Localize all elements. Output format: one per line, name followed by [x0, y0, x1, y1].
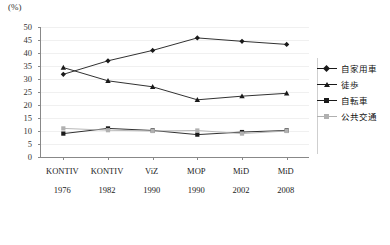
legend-item-1[interactable]: 徒歩 [317, 76, 389, 92]
legend-item-3[interactable]: 公共交通 [317, 108, 389, 124]
legend-item-2[interactable]: 自転車 [317, 92, 389, 108]
legend-marker-icon-0 [317, 63, 337, 73]
series-2 [61, 126, 289, 136]
series-1 [61, 65, 290, 102]
legend-marker-icon-2 [317, 95, 337, 105]
x-tick-mark [108, 157, 109, 160]
y-tick-label: 50 [2, 23, 32, 32]
y-tick-label: 20 [2, 101, 32, 110]
chart-root: (%) 05101520253035404550 KONTIV1976KONTI… [0, 0, 390, 245]
x-tick-mark [242, 157, 243, 160]
y-axis-unit-label: (%) [8, 2, 22, 12]
x-tick-mark [153, 157, 154, 160]
x-axis-year: 2008 [256, 185, 316, 196]
legend-label-3: 公共交通 [341, 110, 377, 122]
series-line [63, 68, 286, 100]
y-tick-label: 5 [2, 140, 32, 149]
series-3 [61, 126, 289, 135]
y-tick-label: 15 [2, 114, 32, 123]
y-tick-label: 25 [2, 88, 32, 97]
legend-point-icon [324, 82, 330, 87]
legend-point-icon [324, 98, 329, 103]
y-tick-label: 45 [2, 36, 32, 45]
x-tick-mark [63, 157, 64, 160]
data-point-marker [285, 129, 289, 133]
series-0 [61, 35, 290, 77]
data-point-marker [239, 39, 244, 44]
y-tick-label: 10 [2, 127, 32, 136]
data-point-marker [61, 72, 66, 77]
series-line [63, 38, 286, 74]
x-tick-mark [197, 157, 198, 160]
chart-legend: 自家用車 徒歩 自転車 公共交通 [317, 60, 389, 124]
x-axis-survey-name: MiD [256, 166, 316, 177]
y-tick-label: 0 [2, 153, 32, 162]
data-point-marker [284, 42, 289, 47]
y-tick-label: 35 [2, 62, 32, 71]
y-tick-mark [38, 157, 41, 158]
plot-area [40, 27, 309, 158]
data-point-marker [151, 129, 155, 133]
legend-item-0[interactable]: 自家用車 [317, 60, 389, 76]
data-point-marker [195, 133, 199, 137]
data-point-marker [105, 58, 110, 63]
y-tick-label: 30 [2, 75, 32, 84]
legend-point-icon [323, 64, 330, 71]
legend-marker-icon-3 [317, 111, 337, 121]
data-point-marker [150, 48, 155, 53]
legend-label-2: 自転車 [341, 94, 368, 106]
x-axis-labels: KONTIV1976KONTIV1982ViZ1990MOP1990MiD200… [40, 166, 310, 216]
data-point-marker [61, 132, 65, 136]
series-layer [41, 27, 309, 157]
data-point-marker [61, 65, 66, 70]
data-point-marker [195, 35, 200, 40]
data-point-marker [195, 128, 199, 132]
legend-point-icon [324, 114, 329, 119]
x-axis-label-group: MiD2008 [256, 166, 316, 196]
y-tick-label: 40 [2, 49, 32, 58]
legend-label-0: 自家用車 [341, 62, 377, 74]
legend-marker-icon-1 [317, 79, 337, 89]
legend-label-1: 徒歩 [341, 78, 359, 90]
data-point-marker [61, 126, 65, 130]
data-point-marker [106, 128, 110, 132]
x-tick-mark [287, 157, 288, 160]
data-point-marker [240, 132, 244, 136]
